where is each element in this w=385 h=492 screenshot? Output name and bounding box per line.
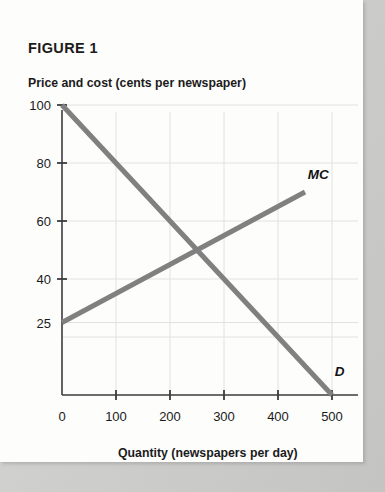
- y-tick-label-25: 25: [7, 315, 51, 330]
- figure-card: FIGURE 1 Price and cost (cents per newsp…: [0, 0, 363, 462]
- chart-plot-area: [0, 0, 363, 462]
- x-tick-label-400: 400: [256, 409, 300, 424]
- y-tick-label-40: 40: [7, 272, 51, 287]
- data-curves: [62, 105, 332, 395]
- curve-MC: [62, 192, 305, 323]
- x-tick-label-200: 200: [148, 409, 192, 424]
- x-tick-label-300: 300: [202, 409, 246, 424]
- y-tick-label-60: 60: [7, 214, 51, 229]
- y-tick-label-80: 80: [7, 156, 51, 171]
- curve-label-D: D: [335, 364, 345, 379]
- x-tick-label-500: 500: [310, 409, 354, 424]
- x-tick-label-0: 0: [40, 409, 84, 424]
- curve-label-MC: MC: [308, 167, 329, 182]
- gridlines: [62, 105, 358, 395]
- y-tick-label-100: 100: [7, 98, 51, 113]
- x-tick-label-100: 100: [94, 409, 138, 424]
